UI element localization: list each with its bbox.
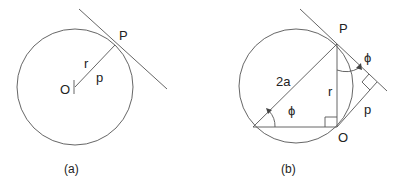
- label-P-b: P: [339, 21, 348, 36]
- caption-a: (a): [64, 162, 79, 176]
- label-r-b: r: [328, 84, 333, 99]
- label-phi-lower-b: ϕ: [288, 103, 295, 118]
- label-P-a: P: [119, 28, 128, 43]
- angle-arc-upper: [337, 68, 359, 72]
- right-angle-marker-foot: [362, 74, 370, 90]
- diagram-canvas: P O r p (a) P O 2a r ϕ ϕ p: [0, 0, 406, 188]
- label-2a-b: 2a: [276, 74, 291, 89]
- label-r-a: r: [84, 56, 89, 71]
- right-angle-marker-base: [325, 117, 337, 127]
- figure-b: [239, 9, 387, 143]
- label-O-b: O: [338, 130, 348, 145]
- label-O-a: O: [60, 82, 70, 97]
- angle-arc-lower: [269, 111, 275, 127]
- diagram-svg: P O r p (a) P O 2a r ϕ ϕ p: [0, 0, 406, 188]
- caption-b: (b): [281, 162, 296, 176]
- circle-b: [239, 29, 353, 143]
- figure-a: [17, 9, 167, 145]
- radius-line-a: [75, 45, 115, 87]
- label-phi-upper-b: ϕ: [364, 50, 371, 65]
- label-p-a: p: [96, 70, 103, 85]
- tangent-line-a: [79, 9, 167, 89]
- label-p-b: p: [364, 102, 371, 117]
